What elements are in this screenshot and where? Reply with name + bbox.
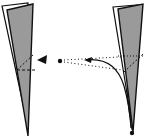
arrow-head-icon xyxy=(37,55,47,64)
fold-diagram xyxy=(0,0,145,139)
pivot-dot xyxy=(58,59,62,63)
curved-arrow-head-icon xyxy=(84,57,92,63)
end-dot xyxy=(130,131,134,135)
